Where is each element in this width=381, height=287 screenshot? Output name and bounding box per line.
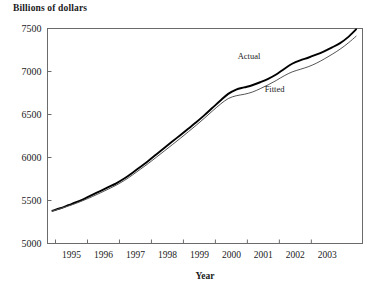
x-axis-tick-label: 1999: [190, 250, 209, 260]
y-axis-tick-label: 5500: [22, 195, 42, 206]
x-axis-tick-labels: 199519961997199819992000200120022003: [62, 250, 337, 260]
series-line-actual: [52, 29, 356, 210]
x-axis-tick-label: 2003: [318, 250, 337, 260]
y-axis-tick-label: 7500: [22, 23, 42, 34]
plot-border: [48, 29, 363, 244]
x-axis-tick-label: 2001: [254, 250, 273, 260]
x-axis-tick-label: 1998: [158, 250, 177, 260]
y-axis-ticks: [48, 29, 52, 244]
line-chart: 500055006000650070007500 199519961997199…: [0, 0, 381, 287]
plot-frame: [48, 29, 363, 244]
x-axis-tick-label: 1996: [94, 250, 113, 260]
x-axis-tick-label: 2002: [286, 250, 305, 260]
x-axis-tick-label: 1997: [126, 250, 145, 260]
series-label-actual: Actual: [238, 51, 261, 61]
x-axis-title: Year: [196, 271, 216, 281]
chart-figure: Billions of dollars 50005500600065007000…: [0, 0, 381, 287]
y-axis-tick-label: 6000: [22, 152, 42, 163]
y-axis-tick-label: 6500: [22, 109, 42, 120]
y-axis-tick-label: 7000: [22, 66, 42, 77]
series-label-fitted: Fitted: [265, 84, 286, 94]
y-axis-tick-label: 5000: [22, 238, 42, 249]
x-axis-tick-label: 1995: [62, 250, 81, 260]
series-lines: [52, 29, 356, 211]
x-axis-tick-label: 2000: [222, 250, 241, 260]
y-axis-tick-labels: 500055006000650070007500: [22, 23, 42, 249]
x-axis-ticks: [55, 240, 311, 244]
series-line-fitted: [52, 36, 356, 211]
